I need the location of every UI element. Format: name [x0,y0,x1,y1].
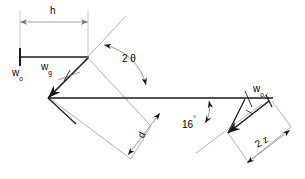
right-waist-group [228,91,272,133]
label-angle-16: 16° [182,118,196,130]
label-w0-right: wo [253,84,264,97]
wg-diagonal [48,58,88,98]
label-wg-subscript: g [48,69,52,76]
label-two-theta: 2 θ [122,54,136,64]
label-angle-16-degree-sign: ° [193,115,196,122]
label-wg: wg [41,62,52,75]
two-theta-arc [104,45,146,85]
angle-16-arc [205,101,210,123]
two-z-dimension-line [247,130,290,163]
label-h: h [50,6,56,16]
wg-leader [58,70,80,81]
lower-left-diagonal [48,98,76,124]
figure-container: h wo wg 2 θ d 16° wo 2 z [0,0,305,179]
label-w0-right-subscript: o [260,91,264,98]
label-w0-left-subscript: o [19,75,23,82]
label-w0-left: wo [12,68,23,81]
left-waist-group [20,48,89,66]
